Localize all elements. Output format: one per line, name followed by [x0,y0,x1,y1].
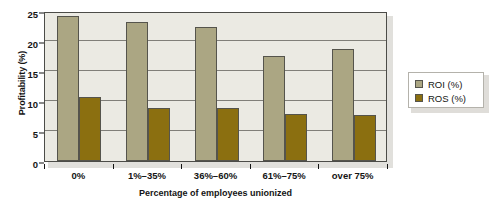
bar-ros [79,97,101,161]
x-axis-tick-mark [181,164,182,169]
legend-box: ROI (%)ROS (%) [408,72,484,108]
bar-roi [57,16,79,161]
y-axis-tick-mark [39,103,44,104]
legend-label: ROI (%) [428,79,462,90]
legend-item: ROI (%) [415,77,483,91]
y-axis-tick-label: 25 [27,9,38,20]
bar-ros [217,108,239,161]
x-axis-tick-mark [250,164,251,169]
bar-roi [332,49,354,161]
plot-area-wrapper: 0510152025 [44,12,389,164]
x-axis-tick-mark [113,164,114,169]
legend-label: ROS (%) [428,93,466,104]
y-axis-tick-mark [39,73,44,74]
x-axis-tick-mark [318,164,319,169]
x-axis-tick-label: over 75% [332,170,374,181]
x-axis-tick-label: 0% [71,170,85,181]
y-axis-tick-label: 5 [33,129,38,140]
x-axis-tick-label: 61%–75% [262,170,305,181]
bar-chart-figure: Profitability (%) 0510152025 0%1%–35%36%… [0,0,497,211]
legend: ROI (%)ROS (%) [408,72,486,110]
plot-area [44,12,387,162]
x-axis-tick-mark [44,164,45,169]
bar-ros [354,115,376,161]
legend-swatch-icon [415,80,423,88]
bar-roi [263,56,285,161]
x-axis-title: Percentage of employees unionized [44,188,387,198]
bar-roi [195,27,217,161]
y-axis-tick-mark [39,13,44,14]
x-axis-tick-mark [387,164,388,169]
y-axis-tick-label: 20 [27,39,38,50]
y-axis-tick-mark [39,43,44,44]
bar-roi [126,22,148,161]
bar-ros [148,108,170,161]
x-axis-tick-label: 1%–35% [128,170,166,181]
y-axis-tick-mark [39,133,44,134]
legend-swatch-icon [415,94,423,102]
y-axis-tick-label: 0 [33,159,38,170]
y-axis-title: Profitability (%) [17,18,27,148]
y-axis-tick-label: 10 [27,99,38,110]
y-axis-tick-label: 15 [27,69,38,80]
bar-ros [285,114,307,161]
legend-item: ROS (%) [415,91,483,105]
x-axis-tick-label: 36%–60% [194,170,237,181]
